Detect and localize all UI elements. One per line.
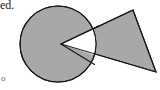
page-text-fragment-top-left: ed. — [0, 0, 14, 11]
figure-container: ed. o — [0, 0, 160, 90]
page-text-fragment-bottom-left: o — [1, 74, 6, 83]
geometry-figure — [0, 0, 160, 90]
